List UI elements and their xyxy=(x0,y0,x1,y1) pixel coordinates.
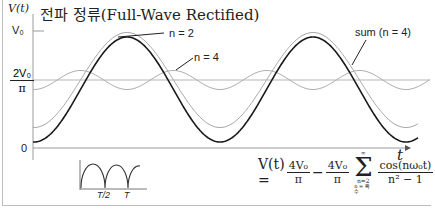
formula-lhs: V(t) = xyxy=(258,156,285,188)
y-axis-label: V(t) xyxy=(8,2,29,15)
chart-title: 전파 정류(Full-Wave Rectified) xyxy=(40,3,259,24)
sigma-icon: Σ xyxy=(354,156,372,178)
legend-n4: n = 4 xyxy=(194,51,219,63)
fourier-formula: V(t) = 4V₀ π − 4V₀ π ∞ Σ n=2 n = 짝수 cos(… xyxy=(258,150,435,194)
tick-2v0-numerator: 2V₀ xyxy=(10,67,34,81)
legend-sum: sum (n = 4) xyxy=(355,26,411,38)
tick-v0: V₀ xyxy=(12,24,24,36)
inset-tick-half-period: T/2 xyxy=(97,190,110,200)
formula-fraction-3: cos(nω₀t) n² − 1 xyxy=(378,159,434,186)
legend-n2: n = 2 xyxy=(169,27,194,39)
tick-2v0-denominator: π xyxy=(10,81,34,95)
leader-n4 xyxy=(176,58,193,70)
inset-rectified-wave xyxy=(80,160,147,190)
leader-n2 xyxy=(118,33,164,37)
formula-minus: − xyxy=(312,164,324,180)
formula-fraction-2: 4V₀ π xyxy=(326,159,349,186)
formula-summation: ∞ Σ n=2 n = 짝수 xyxy=(354,150,372,194)
tick-zero: 0 xyxy=(21,142,27,154)
tick-2v0-over-pi: 2V₀ π xyxy=(10,67,34,95)
inset-tick-period: T xyxy=(124,190,130,200)
leader-sum xyxy=(352,40,366,65)
formula-fraction-1: 4V₀ π xyxy=(287,159,310,186)
